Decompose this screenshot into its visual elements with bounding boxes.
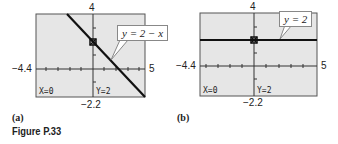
x-readout-a: X=0 [39, 87, 53, 96]
ymax-label-a: 4 [89, 2, 95, 13]
y-readout-b: Y=2 [257, 86, 271, 95]
panel-label-a: (a) [12, 112, 24, 123]
ymax-label-b: 4 [250, 1, 256, 12]
equation-callout-b: y = 2 [279, 11, 312, 27]
x-readout-b: X=0 [203, 86, 217, 95]
xmax-label-a: 5 [149, 63, 155, 74]
y-readout-a: Y=2 [96, 87, 110, 96]
panel-label-b: (b) [177, 112, 189, 123]
xmax-label-b: 5 [321, 60, 327, 71]
xmin-label-b: −4.4 [176, 60, 196, 71]
equation-callout-a: y = 2 − x [117, 25, 168, 41]
xmin-label-a: −4.4 [12, 63, 32, 74]
figure-caption: Figure P.33 [12, 125, 61, 137]
ymin-label-b: −2.2 [243, 97, 263, 108]
ymin-label-a: −2.2 [81, 99, 101, 110]
